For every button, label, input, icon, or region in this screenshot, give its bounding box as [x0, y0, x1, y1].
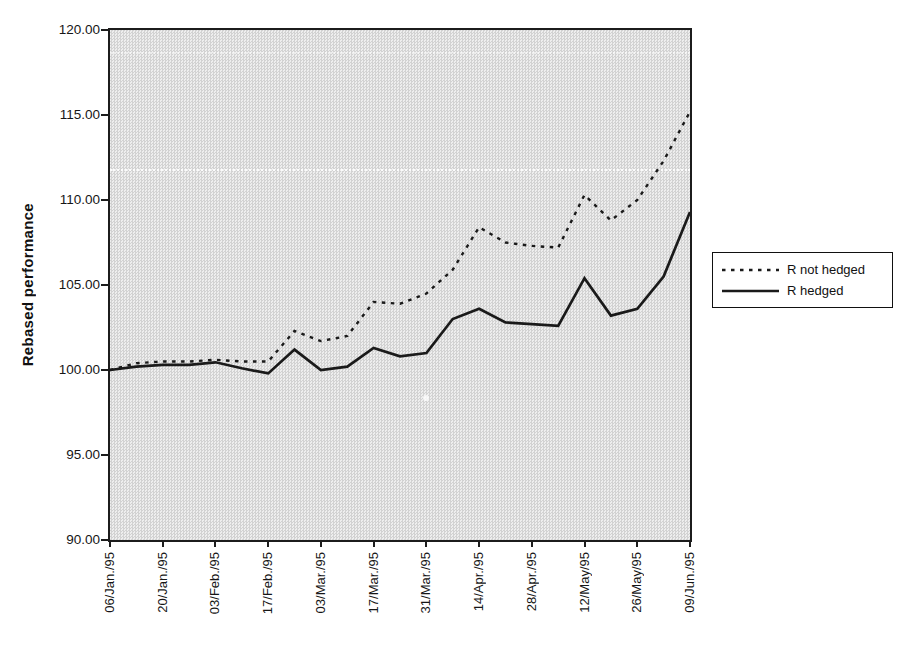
y-tick-label: 100.00 — [38, 362, 100, 378]
x-tick-label: 12/May/95 — [577, 552, 592, 613]
y-axis-title-text: Rebased performance — [19, 203, 36, 366]
legend-sample-solid-line — [721, 285, 781, 297]
y-tick-label: 105.00 — [38, 277, 100, 293]
x-tick-mark — [531, 542, 533, 547]
legend-item-r-hedged: R hedged — [721, 283, 884, 298]
legend-label: R hedged — [787, 283, 843, 298]
y-tick-label: 95.00 — [38, 447, 100, 463]
x-tick-mark — [109, 542, 111, 547]
y-axis-title: Rebased performance — [16, 30, 38, 540]
x-tick-mark — [689, 542, 691, 547]
legend-sample-dashed-line — [721, 264, 781, 276]
y-tick-label: 90.00 — [38, 532, 100, 548]
plot-area — [108, 28, 692, 542]
x-tick-mark — [162, 542, 164, 547]
x-tick-mark — [267, 542, 269, 547]
legend-item-r-not-hedged: R not hedged — [721, 262, 884, 277]
x-tick-label: 17/Feb./95 — [260, 552, 275, 614]
x-tick-mark — [373, 542, 375, 547]
x-tick-label: 03/Mar./95 — [313, 552, 328, 613]
x-tick-label: 06/Jan./95 — [102, 552, 117, 613]
x-tick-mark — [320, 542, 322, 547]
x-tick-mark — [478, 542, 480, 547]
x-tick-label: 17/Mar./95 — [366, 552, 381, 613]
x-tick-label: 09/Jun./95 — [682, 552, 697, 613]
series-line-r-hedged — [110, 212, 690, 374]
legend-label: R not hedged — [787, 262, 865, 277]
x-tick-mark — [214, 542, 216, 547]
x-tick-mark — [636, 542, 638, 547]
chart-figure: Rebased performance 120.00115.00110.0010… — [0, 0, 899, 647]
scan-artifact-dot — [423, 395, 429, 401]
y-tick-label: 120.00 — [38, 22, 100, 38]
x-tick-mark — [584, 542, 586, 547]
x-tick-label: 28/Apr./95 — [524, 552, 539, 611]
y-tick-label: 115.00 — [38, 107, 100, 123]
x-tick-mark — [425, 542, 427, 547]
x-tick-label: 03/Feb./95 — [207, 552, 222, 614]
x-tick-label: 31/Mar./95 — [418, 552, 433, 613]
legend: R not hedgedR hedged — [712, 252, 893, 308]
x-tick-label: 20/Jan./95 — [155, 552, 170, 613]
series-line-r-not-hedged — [110, 112, 690, 370]
y-tick-label: 110.00 — [38, 192, 100, 208]
x-tick-label: 14/Apr./95 — [471, 552, 486, 611]
x-tick-label: 26/May/95 — [629, 552, 644, 613]
line-chart-canvas — [110, 30, 690, 540]
